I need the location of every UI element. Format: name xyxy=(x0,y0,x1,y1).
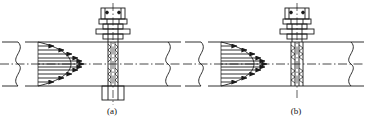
velocity-arrows-a xyxy=(38,46,84,82)
pipe-b xyxy=(185,42,364,86)
panel-a: (a) xyxy=(0,3,181,116)
panel-a-caption: (a) xyxy=(107,106,117,116)
velocity-arrows-b xyxy=(221,46,267,82)
pipe-a xyxy=(2,42,181,86)
panel-b-caption: (b) xyxy=(291,106,302,116)
figure-canvas: (a) xyxy=(0,0,366,122)
technical-drawing: (a) xyxy=(0,0,366,122)
panel-b: (b) xyxy=(183,3,364,116)
